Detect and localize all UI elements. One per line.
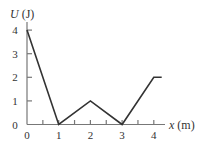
y-tick-label: 4 — [12, 24, 18, 36]
y-tick-label: 2 — [12, 71, 18, 83]
x-tick-label: 4 — [151, 129, 157, 141]
x-tick-label: 2 — [88, 129, 94, 141]
energy-curve — [27, 30, 162, 124]
y-tick-label: 3 — [12, 48, 18, 60]
axes — [27, 22, 165, 125]
ticks: 0123401234 — [12, 24, 157, 140]
x-tick-label: 1 — [56, 129, 62, 141]
y-tick-label: 1 — [12, 95, 18, 107]
potential-energy-chart: 0123401234 U (J) x (m) — [0, 0, 199, 149]
y-tick-label: 0 — [12, 119, 18, 131]
x-tick-label: 0 — [24, 129, 30, 141]
x-axis-label: x (m) — [168, 118, 195, 132]
y-axis-label: U (J) — [10, 7, 34, 21]
x-tick-label: 3 — [119, 129, 125, 141]
